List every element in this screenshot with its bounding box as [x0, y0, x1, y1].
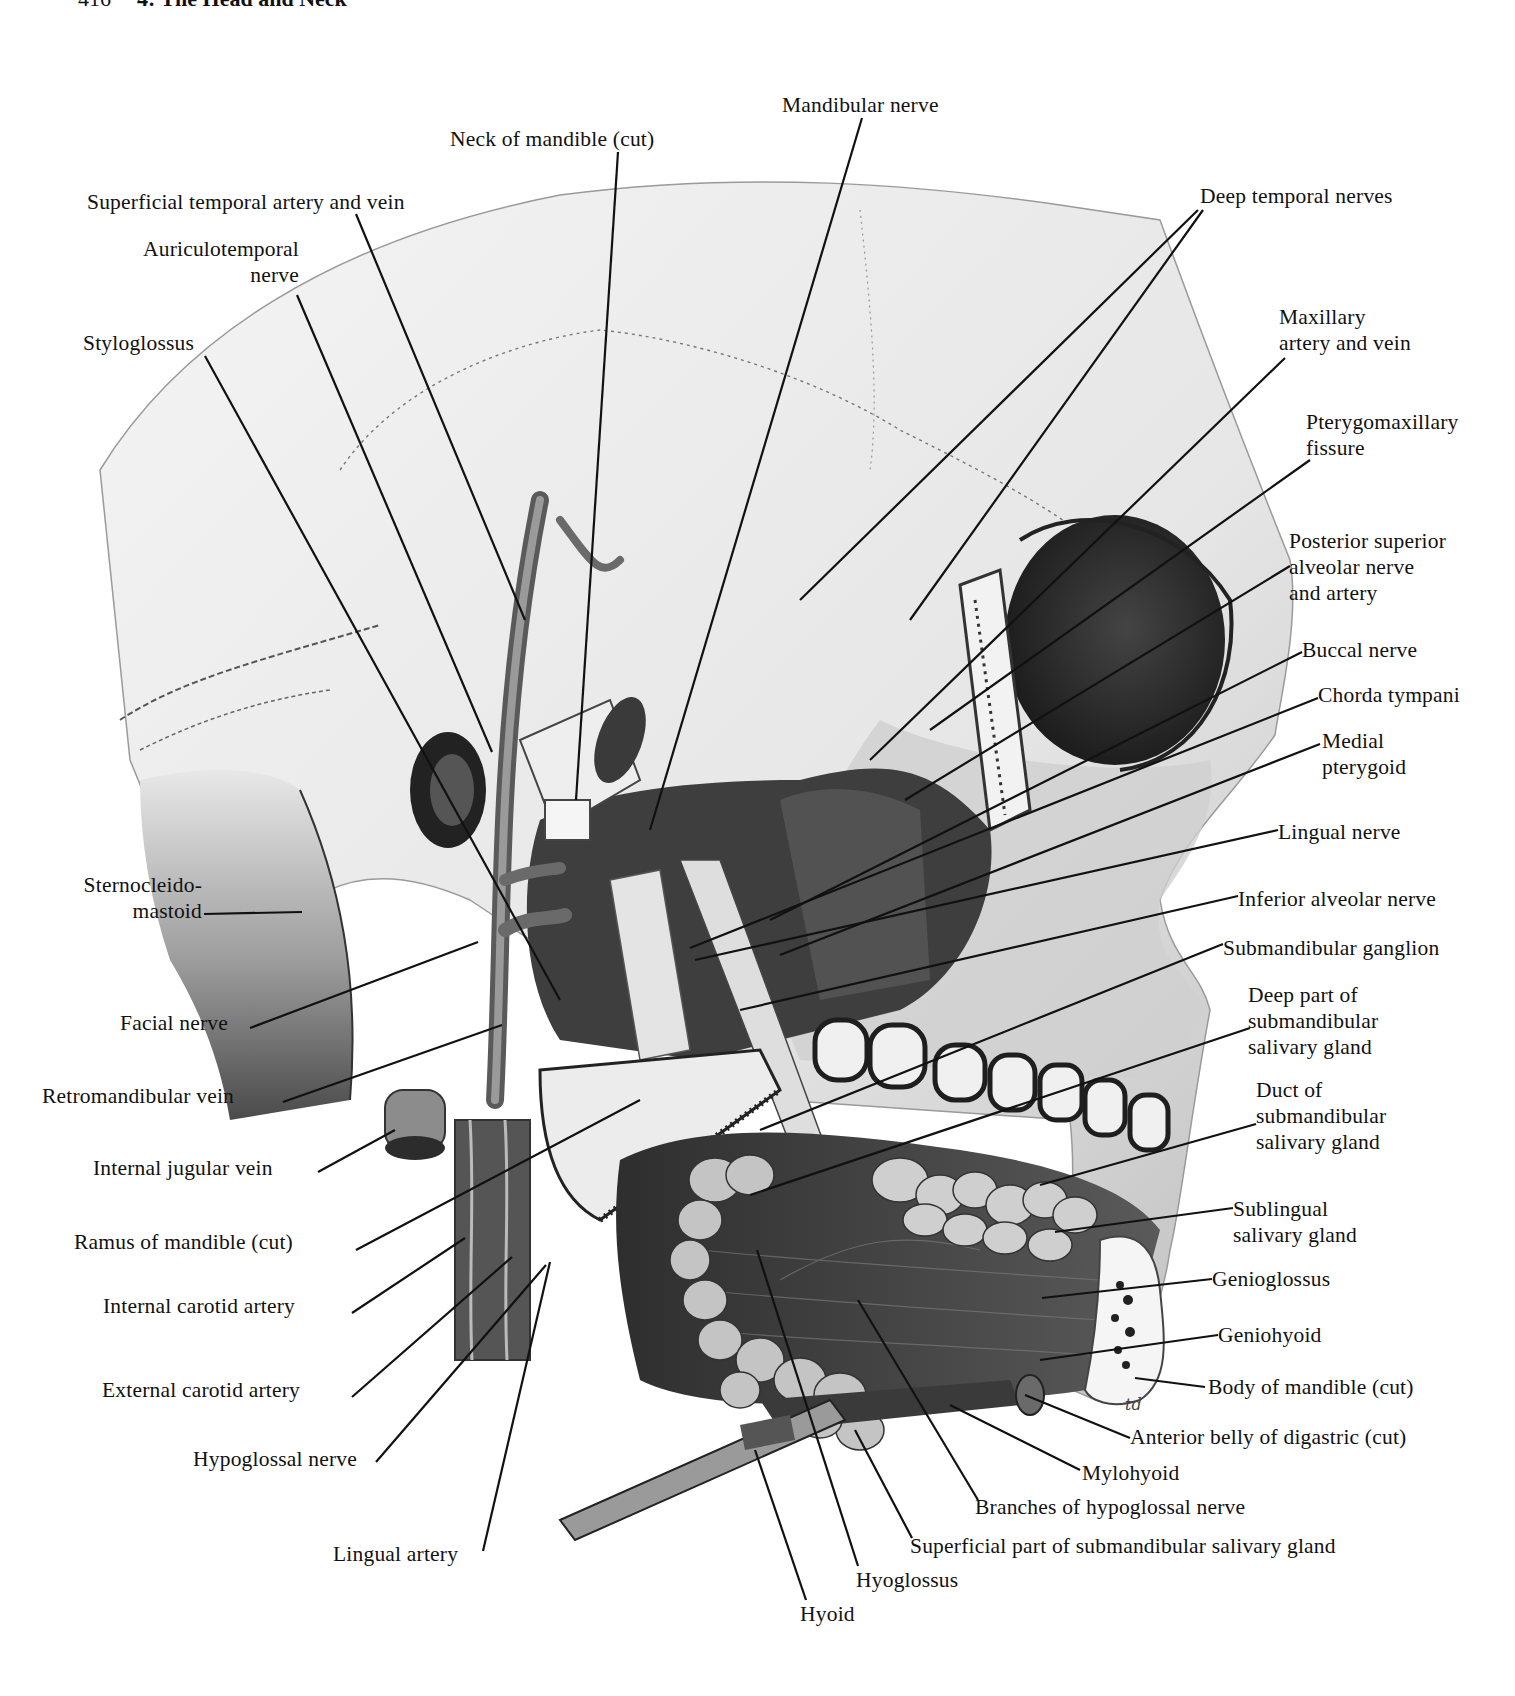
label-branches-hypoglossal: Branches of hypoglossal nerve [975, 1494, 1245, 1520]
label-chorda-tympani: Chorda tympani [1318, 682, 1460, 708]
label-duct-submandibular: Duct of submandibular salivary gland [1256, 1077, 1386, 1155]
label-ramus-of-mandible: Ramus of mandible (cut) [74, 1229, 293, 1255]
leader-line-superficial-part-submandibular [855, 1430, 912, 1538]
label-hyoglossus: Hyoglossus [856, 1567, 958, 1593]
label-geniohyoid: Geniohyoid [1218, 1322, 1322, 1348]
label-external-carotid: External carotid artery [102, 1377, 300, 1403]
label-maxillary-artery: Maxillary artery and vein [1279, 304, 1411, 356]
label-deep-part-submandibular: Deep part of submandibular salivary glan… [1248, 982, 1378, 1060]
label-auriculotemporal: Auriculotemporal nerve [107, 236, 299, 288]
label-superficial-part-submandibular: Superficial part of submandibular saliva… [910, 1533, 1336, 1559]
leader-line-mylohyoid [950, 1405, 1080, 1470]
label-inferior-alveolar: Inferior alveolar nerve [1238, 886, 1436, 912]
label-submandibular-ganglion: Submandibular ganglion [1223, 935, 1439, 961]
label-hyoid: Hyoid [800, 1601, 855, 1627]
label-internal-carotid: Internal carotid artery [103, 1293, 295, 1319]
label-body-of-mandible: Body of mandible (cut) [1208, 1374, 1414, 1400]
label-sternocleidomastoid: Sternocleido- mastoid [52, 872, 202, 924]
label-facial-nerve: Facial nerve [120, 1010, 228, 1036]
label-hypoglossal-nerve: Hypoglossal nerve [193, 1446, 357, 1472]
label-neck-of-mandible: Neck of mandible (cut) [450, 126, 654, 152]
label-buccal-nerve: Buccal nerve [1302, 637, 1417, 663]
label-retromandibular-vein: Retromandibular vein [42, 1083, 234, 1109]
artist-signature: td [1125, 1395, 1142, 1414]
label-styloglossus: Styloglossus [83, 330, 194, 356]
orbit [1005, 515, 1225, 765]
leader-line-hyoid [755, 1450, 806, 1600]
label-sublingual-gland: Sublingual salivary gland [1233, 1196, 1357, 1248]
label-superficial-temporal: Superficial temporal artery and vein [87, 189, 405, 215]
label-lingual-artery: Lingual artery [333, 1541, 458, 1567]
label-deep-temporal: Deep temporal nerves [1200, 183, 1393, 209]
label-internal-jugular-vein: Internal jugular vein [93, 1155, 273, 1181]
label-mandibular-nerve: Mandibular nerve [782, 92, 939, 118]
label-anterior-belly-digastric: Anterior belly of digastric (cut) [1130, 1424, 1406, 1450]
leader-line-internal-jugular-vein [318, 1130, 395, 1172]
label-posterior-superior-alveolar: Posterior superior alveolar nerve and ar… [1289, 528, 1446, 606]
label-lingual-nerve: Lingual nerve [1278, 819, 1401, 845]
leader-line-internal-carotid [352, 1238, 465, 1313]
label-medial-pterygoid: Medial pterygoid [1322, 728, 1406, 780]
label-pterygomaxillary: Pterygomaxillary fissure [1306, 409, 1458, 461]
carotid-sheath [455, 1120, 530, 1360]
label-genioglossus: Genioglossus [1212, 1266, 1330, 1292]
label-mylohyoid: Mylohyoid [1082, 1460, 1179, 1486]
hyoid-and-tendon [560, 1400, 845, 1540]
